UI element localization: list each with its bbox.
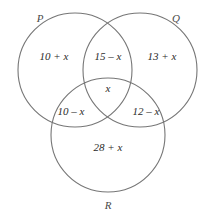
circle-r [51,78,165,192]
region-label-center-all-three: x [106,83,111,94]
set-label-q: Q [172,13,180,24]
region-label-q-only: 13 + x [148,51,177,62]
region-label-p-only: 10 + x [40,51,69,62]
set-label-r: R [105,200,112,211]
region-label-r-only: 28 + x [94,142,123,153]
region-label-p-and-r-only: 10 – x [58,106,85,117]
venn-circles-graphic [0,0,215,218]
venn-diagram-figure: P Q R 10 + x 15 – x 13 + x x 10 – x 12 –… [0,0,215,218]
region-label-p-and-q-only: 15 – x [95,51,122,62]
region-label-q-and-r-only: 12 – x [133,106,160,117]
set-label-p: P [37,13,44,24]
